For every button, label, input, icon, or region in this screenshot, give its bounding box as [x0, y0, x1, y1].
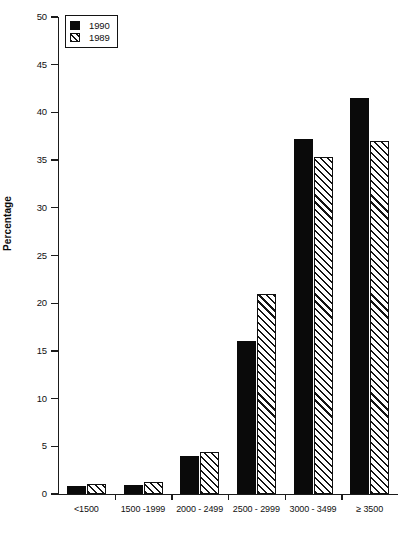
- legend-swatch-solid-icon: [70, 21, 80, 30]
- legend-label-1990: 1990: [89, 21, 110, 31]
- y-axis-tick-label: 40: [23, 107, 47, 117]
- y-axis-tick: [51, 446, 58, 447]
- bar-1989-3: [257, 294, 276, 494]
- y-axis-tick: [51, 398, 58, 399]
- y-axis-tick-label: 50: [23, 12, 47, 22]
- y-axis-tick-label: 0: [23, 489, 47, 499]
- y-axis-tick-label: 45: [23, 60, 47, 70]
- x-axis-tick: [341, 494, 342, 500]
- x-axis-category-label: 2500 - 2999: [228, 505, 285, 514]
- legend-entry-1989: 1989: [70, 32, 110, 43]
- y-axis-line: [58, 17, 59, 495]
- y-axis-tick-label: 20: [23, 298, 47, 308]
- y-axis-tick: [51, 303, 58, 304]
- bar-chart: Percentage 05101520253035404550 <1500150…: [0, 0, 406, 536]
- bar-1990-2: [180, 456, 199, 494]
- bar-1990-1: [124, 485, 143, 494]
- bar-1990-5: [350, 98, 369, 494]
- y-axis-tick-label: 30: [23, 203, 47, 213]
- y-axis-tick: [51, 350, 58, 351]
- x-axis-tick: [115, 494, 116, 500]
- bar-1989-1: [144, 482, 163, 494]
- y-axis-tick: [51, 159, 58, 160]
- x-axis-category-label: 3000 - 3499: [285, 505, 342, 514]
- y-axis-tick-label: 15: [23, 346, 47, 356]
- x-axis-category-label: <1500: [58, 505, 115, 514]
- x-axis-tick: [228, 494, 229, 500]
- x-axis-tick: [285, 494, 286, 500]
- chart-legend: 1990 1989: [65, 15, 118, 48]
- y-axis-tick: [51, 493, 58, 494]
- y-axis-tick: [51, 112, 58, 113]
- bar-1989-0: [87, 484, 106, 494]
- y-axis-tick: [51, 255, 58, 256]
- x-axis-tick: [171, 494, 172, 500]
- x-axis-category-label: 2000 - 2499: [171, 505, 228, 514]
- y-axis-tick-label: 35: [23, 155, 47, 165]
- bar-1989-4: [314, 157, 333, 494]
- legend-entry-1990: 1990: [70, 20, 110, 31]
- x-axis-category-label: 1500 -1999: [115, 505, 172, 514]
- y-axis-tick: [51, 207, 58, 208]
- y-axis-tick-label: 5: [23, 441, 47, 451]
- y-axis-tick: [51, 16, 58, 17]
- y-axis-title-text: Percentage: [2, 196, 13, 251]
- legend-label-1989: 1989: [89, 33, 110, 43]
- bar-1989-5: [370, 141, 389, 494]
- legend-swatch-hatched-icon: [70, 33, 80, 42]
- y-axis-tick: [51, 64, 58, 65]
- y-axis-tick-label: 10: [23, 394, 47, 404]
- bar-1989-2: [200, 452, 219, 494]
- x-axis-category-label: ≥ 3500: [341, 505, 398, 514]
- y-axis-tick-label: 25: [23, 251, 47, 261]
- bar-1990-3: [237, 341, 256, 494]
- bar-1990-4: [294, 139, 313, 494]
- bar-1990-0: [67, 486, 86, 494]
